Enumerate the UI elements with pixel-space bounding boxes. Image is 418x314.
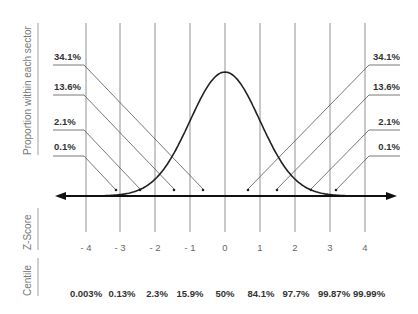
svg-text:3: 3 (327, 242, 332, 253)
svg-text:84.1%: 84.1% (248, 288, 275, 299)
svg-text:2: 2 (292, 242, 297, 253)
svg-text:97.7%: 97.7% (283, 288, 310, 299)
svg-text:- 4: - 4 (80, 242, 91, 253)
svg-text:15.9%: 15.9% (177, 288, 204, 299)
svg-text:0: 0 (222, 242, 227, 253)
svg-text:0.003%: 0.003% (70, 288, 103, 299)
svg-text:99.99%: 99.99% (353, 288, 386, 299)
zscore-axis-label: Z-Score (22, 214, 33, 250)
zscore-tick-labels: - 4 - 3 - 2 - 1 0 1 2 3 4 (80, 242, 367, 253)
left-leader-dots (115, 189, 205, 192)
right-label-13: 13.6% (373, 81, 400, 92)
centile-labels: 0.003% 0.13% 2.3% 15.9% 50% 84.1% 97.7% … (70, 288, 386, 299)
arrow-left-icon (55, 192, 66, 200)
right-label-0: 0.1% (378, 141, 400, 152)
svg-text:- 1: - 1 (184, 242, 195, 253)
svg-text:- 3: - 3 (114, 242, 125, 253)
svg-text:4: 4 (362, 242, 367, 253)
left-label-2: 2.1% (54, 116, 76, 127)
svg-text:- 2: - 2 (149, 242, 160, 253)
svg-text:1: 1 (257, 242, 262, 253)
left-label-34: 34.1% (54, 51, 81, 62)
vertical-gridlines (86, 23, 365, 232)
normal-distribution-diagram: Proportion within each sector Z-Score Ce… (0, 0, 418, 314)
svg-text:0.13%: 0.13% (109, 288, 136, 299)
right-label-2: 2.1% (378, 116, 400, 127)
svg-text:2.3%: 2.3% (146, 288, 168, 299)
right-label-34: 34.1% (373, 51, 400, 62)
left-label-13: 13.6% (54, 81, 81, 92)
centile-axis-label: Centile (22, 264, 33, 296)
proportion-axis-label: Proportion within each sector (22, 25, 33, 155)
svg-text:99.87%: 99.87% (318, 288, 351, 299)
left-label-0: 0.1% (54, 141, 76, 152)
svg-text:50%: 50% (215, 288, 235, 299)
arrow-right-icon (386, 192, 397, 200)
